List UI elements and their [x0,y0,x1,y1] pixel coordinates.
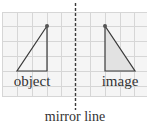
object-label: object [14,73,51,89]
mirror-reflection-diagram: object image mirror line [0,0,149,124]
object-apex-dot [45,24,49,28]
mirror-line-label: mirror line [45,109,105,124]
image-apex-dot [103,24,107,28]
image-label: image [102,73,139,89]
